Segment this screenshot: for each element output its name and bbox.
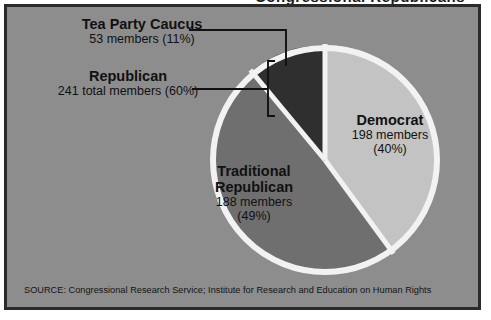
chart-image: Congressional Republicans [0, 0, 491, 320]
label-republican-heading: Republican [28, 68, 228, 84]
label-republican: Republican 241 total members (60%) [28, 68, 228, 98]
label-tea-party-caucus-detail: 53 members (11%) [52, 32, 232, 46]
label-traditional-republican-percent: (49%) [190, 209, 318, 223]
label-democrat-members: 198 members [336, 128, 444, 142]
pie-chart-graphic [0, 0, 491, 320]
source-note: SOURCE: Congressional Research Service; … [24, 285, 431, 295]
label-tea-party-caucus-heading: Tea Party Caucus [52, 16, 232, 32]
label-traditional-republican-heading-2: Republican [190, 179, 318, 195]
label-democrat-heading: Democrat [336, 112, 444, 128]
label-traditional-republican-members: 188 members [190, 195, 318, 209]
label-republican-detail: 241 total members (60%) [28, 84, 228, 98]
label-democrat: Democrat 198 members (40%) [336, 112, 444, 156]
label-tea-party-caucus: Tea Party Caucus 53 members (11%) [52, 16, 232, 46]
label-traditional-republican: Traditional Republican 188 members (49%) [190, 163, 318, 223]
label-democrat-percent: (40%) [336, 142, 444, 156]
label-traditional-republican-heading-1: Traditional [190, 163, 318, 179]
